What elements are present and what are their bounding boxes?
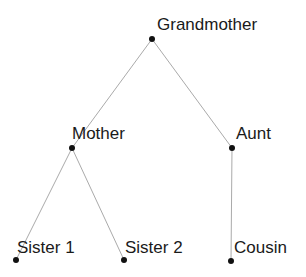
node-dot-mother[interactable] bbox=[69, 145, 75, 151]
edge-aunt-to-cousin bbox=[231, 148, 232, 261]
edge-grandmother-to-aunt bbox=[152, 39, 232, 148]
node-dot-sister1[interactable] bbox=[13, 257, 19, 263]
node-dot-cousin[interactable] bbox=[228, 258, 234, 264]
node-label-sister1: Sister 1 bbox=[17, 239, 75, 256]
node-label-grandmother: Grandmother bbox=[157, 16, 257, 33]
node-label-sister2: Sister 2 bbox=[125, 239, 183, 256]
nodes-group bbox=[13, 36, 235, 264]
node-dot-aunt[interactable] bbox=[229, 145, 235, 151]
node-label-mother: Mother bbox=[72, 125, 125, 142]
edges-group bbox=[16, 39, 232, 261]
edge-mother-to-sister2 bbox=[72, 148, 124, 260]
family-tree-diagram: GrandmotherMotherAuntSister 1Sister 2Cou… bbox=[0, 0, 306, 277]
node-dot-grandmother[interactable] bbox=[149, 36, 155, 42]
node-dot-sister2[interactable] bbox=[121, 257, 127, 263]
node-label-aunt: Aunt bbox=[236, 125, 271, 142]
node-label-cousin: Cousin bbox=[234, 239, 287, 256]
